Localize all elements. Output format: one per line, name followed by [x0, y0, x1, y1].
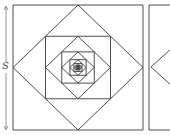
right-square-partial — [149, 5, 170, 130]
nested-squares — [13, 5, 143, 130]
nested-squares-diagram — [0, 0, 170, 135]
side-label: S — [2, 60, 9, 71]
